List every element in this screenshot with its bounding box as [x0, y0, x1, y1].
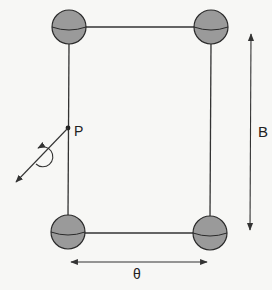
diagram-canvas: P B θ — [0, 0, 272, 290]
rotation-circle-icon — [36, 147, 53, 167]
label-field-b: B — [258, 123, 268, 140]
sphere-bottom-right — [193, 216, 227, 250]
sphere-top-left — [52, 10, 86, 44]
field-b-arrow — [250, 34, 251, 230]
wire-frame — [68, 27, 211, 233]
sphere-top-right — [194, 10, 228, 44]
sphere-bottom-left — [51, 215, 85, 249]
label-point-p: P — [74, 123, 83, 139]
rotation-axis-arrow — [16, 128, 68, 182]
wire-right — [210, 44, 211, 216]
label-angle-theta: θ — [133, 266, 141, 282]
